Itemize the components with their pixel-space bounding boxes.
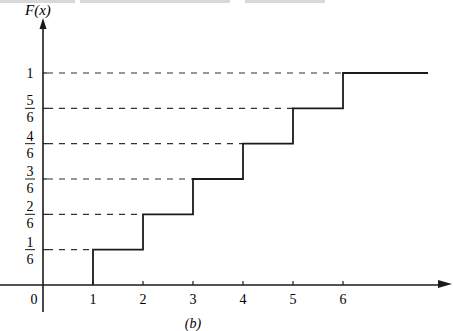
x-tick-label: 2 bbox=[140, 292, 147, 307]
origin-label: 0 bbox=[31, 292, 38, 307]
fraction-denominator: 6 bbox=[27, 216, 34, 231]
x-axis-arrow-icon bbox=[438, 280, 452, 288]
fraction-numerator: 2 bbox=[27, 199, 34, 214]
fraction-numerator: 4 bbox=[27, 129, 34, 144]
fraction-denominator: 6 bbox=[27, 110, 34, 125]
fraction-denominator: 6 bbox=[27, 181, 34, 196]
y-tick-fraction: 36 bbox=[25, 164, 35, 196]
fraction-denominator: 6 bbox=[27, 252, 34, 267]
y-tick-label: 1 bbox=[27, 66, 34, 81]
y-axis-label: F(x) bbox=[24, 2, 51, 19]
step-function-chart: 123456 16263646561 F(x) 0 (b) bbox=[0, 0, 453, 331]
y-tick-fraction: 56 bbox=[25, 93, 35, 125]
x-tick-label: 1 bbox=[90, 292, 97, 307]
y-axis-arrow-icon bbox=[40, 18, 47, 29]
reference-dashed-lines bbox=[47, 73, 343, 250]
fraction-numerator: 5 bbox=[27, 93, 34, 108]
fraction-numerator: 1 bbox=[27, 235, 34, 250]
axes bbox=[0, 18, 452, 312]
y-tick-fraction: 26 bbox=[25, 199, 35, 231]
fraction-denominator: 6 bbox=[27, 146, 34, 161]
x-tick-label: 4 bbox=[240, 292, 247, 307]
fraction-numerator: 3 bbox=[27, 164, 34, 179]
x-tick-label: 5 bbox=[290, 292, 297, 307]
figure-caption: (b) bbox=[185, 316, 202, 331]
x-tick-label: 6 bbox=[340, 292, 347, 307]
y-tick-fraction: 16 bbox=[25, 235, 35, 267]
x-tick-label: 3 bbox=[190, 292, 197, 307]
y-tick-fraction: 46 bbox=[25, 129, 35, 161]
